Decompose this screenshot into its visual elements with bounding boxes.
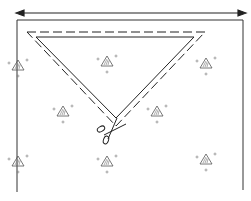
fabric-cutting-diagram <box>0 0 251 201</box>
arrowhead-right-icon <box>238 10 246 16</box>
motif <box>53 105 73 123</box>
fabric-panel <box>17 20 243 192</box>
motif-partial <box>8 59 28 77</box>
cutting-line <box>36 37 194 118</box>
motif <box>196 153 216 171</box>
seam-line <box>27 32 205 126</box>
cut-triangle <box>27 32 205 126</box>
motif <box>196 57 216 75</box>
motif <box>147 105 167 123</box>
arrowhead-left-icon <box>16 10 24 16</box>
motif <box>97 55 117 73</box>
scissors-icon <box>96 118 126 145</box>
motif-partial <box>8 155 28 173</box>
motif <box>97 155 117 173</box>
width-arrow <box>16 10 246 16</box>
